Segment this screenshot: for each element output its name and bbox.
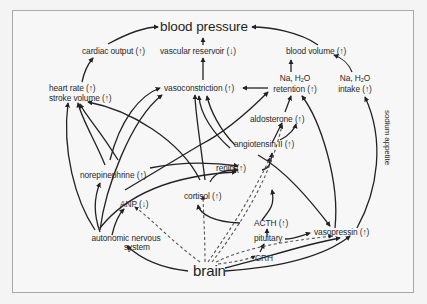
edge-label-sodium-appetite: sodium appetite: [383, 110, 392, 165]
node-stroke-volume: stroke volume (↑): [49, 94, 112, 103]
edge-acth-to-cortisol: [198, 205, 240, 223]
node-blood-pressure: blood pressure: [160, 20, 248, 34]
edge-ans-to-hr: [67, 103, 95, 230]
node-norepinephrine: norepinephrine (↑): [80, 171, 146, 180]
node-aldosterone: aldosterone (↑): [250, 115, 304, 124]
edge-ne-to-vaso: [110, 88, 160, 160]
node-autonomic-nervous-system: autonomic nervous system: [86, 234, 166, 252]
node-pituitary: pituitary: [254, 234, 282, 243]
node-anp: ANP (↓): [120, 200, 148, 209]
node-renin: renin (↑): [216, 164, 246, 173]
node-na-h2o-retention: Na, H2O retention (↑): [272, 74, 318, 94]
node-vasopressin: vasopressin (↑): [314, 228, 369, 237]
node-cardiac-output: cardiac output (↑): [82, 47, 145, 56]
retention-line1: Na, H2O: [280, 73, 310, 83]
node-heart-rate: heart rate (↑): [49, 84, 96, 93]
edge-pituitary-to-vasopressin: [285, 233, 310, 239]
node-blood-volume: blood volume (↑): [286, 47, 346, 56]
edge-cardiac-to-bp: [108, 27, 158, 44]
edge-crh-to-pituitary: [260, 244, 264, 252]
intake-line1: Na, H2O: [340, 73, 370, 83]
node-vasoconstriction: vasoconstriction (↑): [164, 84, 234, 93]
node-acth: ACTH (↑): [254, 219, 288, 228]
edge-brain-to-cortisol-dashed: [203, 196, 205, 262]
edge-hr-to-co: [82, 58, 93, 82]
node-na-h2o-intake: Na, H2O intake (↑): [334, 74, 376, 94]
edge-vasopressin-to-retention: [302, 96, 336, 228]
edge-ans-to-ne: [95, 183, 100, 232]
edge-angio-to-vaso: [207, 96, 235, 145]
node-crh: CRH: [255, 254, 273, 263]
edge-bloodvol-to-bp: [252, 27, 318, 45]
edge-sodium-appetite: [357, 97, 377, 228]
node-brain: brain: [193, 263, 226, 278]
edge-intake-to-bloodvol: [334, 55, 352, 72]
edge-aldo-to-retention: [285, 96, 291, 112]
edge-cortisol-to-vaso: [195, 95, 205, 180]
node-vascular-reservoir: vascular reservoir (↓): [160, 47, 236, 56]
edge-ans-to-vaso: [100, 95, 162, 230]
node-cortisol: cortisol (↑): [184, 192, 221, 201]
edge-brain-to-vasopressin: [225, 236, 350, 271]
node-angiotensin-ii: angiotensin II (↑): [234, 140, 294, 149]
